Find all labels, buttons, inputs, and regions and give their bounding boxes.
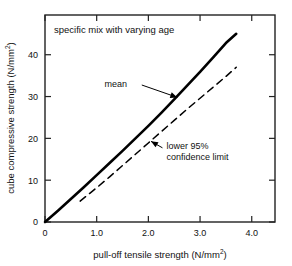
annotation-label-mean: mean [105,79,128,89]
y-tick-label-4: 40 [28,50,38,60]
x-axis-label: pull-off tensile strength (N/mm2) [93,248,226,260]
y-axis-label-tail: ) [5,42,16,45]
y-tick-label-1: 10 [28,176,38,186]
y-tick-label-2: 20 [28,134,38,144]
x-tick-label-1: 1.0 [90,228,103,238]
annotation-label-line2: confidence limit [166,152,229,162]
x-tick-label-0: 0 [42,228,47,238]
plot-svg: 01.02.03.04.0 010203040 meanlower 95%con… [0,0,292,266]
figure-background [0,0,292,266]
plot-title: specific mix with varying age [54,24,174,35]
x-tick-label-2: 2.0 [142,228,155,238]
x-axis-label-main: pull-off tensile strength (N/mm [93,249,220,260]
x-tick-label-4: 4.0 [245,228,258,238]
y-tick-label-0: 0 [33,217,38,227]
chart-figure: 01.02.03.04.0 010203040 meanlower 95%con… [0,0,292,266]
annotation-label-line1: lower 95% [166,141,208,151]
x-tick-label-3: 3.0 [194,228,207,238]
y-axis-label-main: cube compressive strength (N/mm [5,49,16,194]
y-tick-label-3: 30 [28,92,38,102]
y-axis-label: cube compressive strength (N/mm2) [4,42,16,193]
x-axis-label-tail: ) [224,249,227,260]
